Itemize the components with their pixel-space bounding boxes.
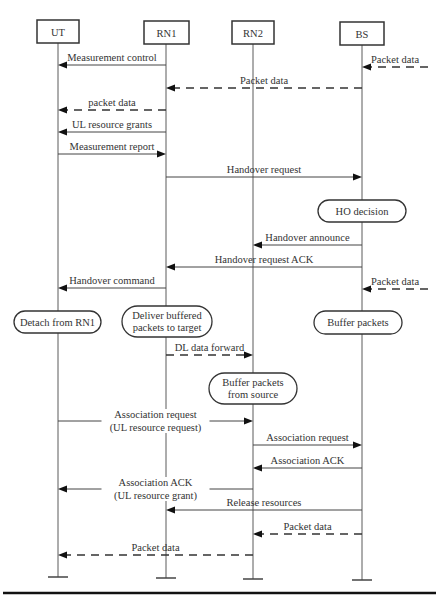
sequence-diagram: Packet dataMeasurement controlPacket dat…: [0, 0, 446, 601]
sequence-diagram-canvas: Packet dataMeasurement controlPacket dat…: [0, 0, 446, 601]
message-label: Handover announce: [265, 232, 350, 243]
message-packet-data: Packet data: [58, 542, 253, 559]
state-detach-from-rn1: Detach from RN1: [14, 311, 101, 333]
message-label: Packet data: [371, 54, 419, 65]
state-label: Buffer packets: [222, 377, 283, 388]
message-label: Packet data: [131, 542, 179, 553]
message-label: Handover command: [69, 275, 155, 286]
message-association-ack: Association ACK: [253, 455, 362, 472]
state-boxes: HO decisionDetach from RN1Deliver buffer…: [14, 200, 406, 404]
arrowhead-icon: [244, 352, 253, 359]
arrowhead-icon: [244, 418, 253, 425]
message-label: Packet data: [283, 521, 331, 532]
actor-ut: UT: [37, 20, 79, 43]
arrowhead-icon: [362, 286, 371, 293]
arrowhead-icon: [58, 129, 67, 136]
state-label: HO decision: [336, 206, 390, 217]
message-label: Packet data: [240, 75, 288, 86]
message-packet-data: Packet data: [362, 276, 428, 293]
state-buffer-packets-from-source: Buffer packetsfrom source: [209, 373, 297, 404]
message-label: Release resources: [227, 497, 302, 508]
arrowhead-icon: [157, 151, 166, 158]
message-handover-request-ack: Handover request ACK: [166, 254, 362, 271]
arrowhead-icon: [58, 62, 67, 69]
message-packet-data: Packet data: [253, 521, 362, 538]
message-label: Packet data: [371, 276, 419, 287]
actor-label: UT: [51, 27, 66, 38]
messages: Packet dataMeasurement controlPacket dat…: [58, 52, 428, 559]
arrowhead-icon: [253, 465, 262, 472]
message-label: packet data: [88, 97, 136, 108]
actor-label: RN1: [157, 28, 177, 39]
arrowhead-icon: [166, 264, 175, 271]
arrowhead-icon: [58, 107, 67, 114]
actor-bs: BS: [340, 22, 384, 45]
actor-label: RN2: [243, 28, 263, 39]
message-label: DL data forward: [175, 342, 245, 353]
message-measurement-report: Measurement report: [58, 141, 166, 158]
message-label: Measurement report: [70, 141, 155, 152]
state-deliver-buffered-packets-to-target: Deliver bufferedpackets to target: [122, 306, 212, 337]
message-handover-request: Handover request: [166, 164, 362, 181]
message-packet-data: Packet data: [362, 54, 428, 71]
state-buffer-packets: Buffer packets: [314, 311, 402, 334]
state-label: Detach from RN1: [20, 317, 95, 328]
arrowhead-icon: [166, 507, 175, 514]
message-sublabel: (UL resource request): [110, 422, 202, 434]
arrowhead-icon: [253, 531, 262, 538]
message-sublabel: (UL resource grant): [114, 490, 197, 502]
message-association-ack: Association ACK(UL resource grant): [58, 477, 253, 502]
arrowhead-icon: [58, 486, 67, 493]
arrowhead-icon: [353, 442, 362, 449]
message-handover-command: Handover command: [58, 275, 166, 292]
message-label: Association request: [114, 409, 197, 420]
message-handover-announce: Handover announce: [253, 232, 362, 249]
actors: UTRN1RN2BS: [37, 20, 384, 45]
message-dl-data-forward: DL data forward: [166, 342, 253, 359]
arrowhead-icon: [58, 552, 67, 559]
message-association-request: Association request: [253, 432, 362, 449]
message-packet-data: packet data: [58, 97, 166, 114]
arrowhead-icon: [166, 85, 175, 92]
message-label: Association ACK: [119, 477, 193, 488]
message-label: Association ACK: [271, 455, 345, 466]
state-label: packets to target: [133, 322, 202, 333]
message-measurement-control: Measurement control: [58, 52, 166, 69]
arrowhead-icon: [58, 285, 67, 292]
message-association-request: Association request(UL resource request): [58, 409, 253, 434]
arrowhead-icon: [353, 174, 362, 181]
state-label: Deliver buffered: [132, 310, 202, 321]
state-label: Buffer packets: [327, 317, 388, 328]
message-label: Handover request ACK: [215, 254, 314, 265]
state-ho-decision: HO decision: [318, 200, 406, 222]
message-label: Measurement control: [67, 52, 157, 63]
arrowhead-icon: [362, 64, 371, 71]
message-packet-data: Packet data: [166, 75, 362, 92]
arrowhead-icon: [253, 242, 262, 249]
message-label: UL resource grants: [72, 119, 152, 130]
state-label: from source: [228, 389, 279, 400]
actor-label: BS: [356, 29, 369, 40]
actor-rn1: RN1: [144, 21, 189, 44]
actor-rn2: RN2: [232, 21, 274, 44]
message-label: Handover request: [227, 164, 301, 175]
message-ul-resource-grants: UL resource grants: [58, 119, 166, 136]
message-label: Association request: [266, 432, 349, 443]
